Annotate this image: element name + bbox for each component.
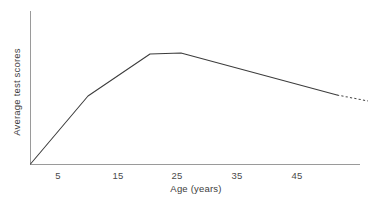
x-tick-label-25: 25 bbox=[172, 170, 183, 181]
y-axis-title: Average test scores bbox=[11, 48, 22, 136]
x-tick-label-35: 35 bbox=[232, 170, 243, 181]
x-tick-label-15: 15 bbox=[113, 170, 124, 181]
data-line-solid bbox=[31, 53, 338, 164]
x-tick-label-5: 5 bbox=[55, 170, 60, 181]
x-tick-label-45: 45 bbox=[292, 170, 303, 181]
data-line-dashed-projection bbox=[337, 95, 368, 101]
chart-container: 5 15 25 35 45 Age (years) Average test s… bbox=[0, 0, 372, 206]
x-axis-title: Age (years) bbox=[170, 183, 221, 194]
